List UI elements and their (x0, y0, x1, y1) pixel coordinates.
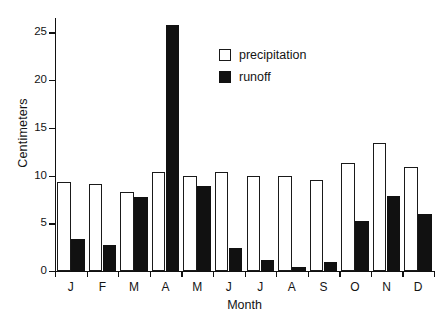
x-axis-tick-mark (276, 271, 277, 277)
x-axis-tick-mark (371, 271, 372, 277)
legend-item-precipitation: precipitation (219, 45, 359, 64)
x-axis-tick-mark (402, 271, 403, 277)
x-axis-tick-label-2: M (119, 280, 149, 294)
legend-item-runoff: runoff (219, 67, 359, 86)
x-axis-tick-label-8: S (308, 280, 338, 294)
x-axis-tick-mark (434, 271, 435, 277)
x-axis-tick-label-6: J (245, 280, 275, 294)
x-axis-tick-mark (55, 271, 56, 277)
x-axis-tick-label-10: N (372, 280, 402, 294)
chart-legend: precipitation runoff (219, 45, 359, 89)
x-axis-tick-label-3: A (151, 280, 181, 294)
x-axis-tick-label-7: A (277, 280, 307, 294)
x-axis-tick-mark (245, 271, 246, 277)
x-axis-tick-mark (118, 271, 119, 277)
x-axis-tick-label-11: D (403, 280, 433, 294)
x-axis-tick-mark (339, 271, 340, 277)
x-axis-title: Month (55, 298, 434, 312)
x-axis-tick-label-9: O (340, 280, 370, 294)
x-axis-tick-mark (181, 271, 182, 277)
x-axis-tick-mark (308, 271, 309, 277)
legend-swatch-runoff-icon (219, 71, 231, 83)
legend-label-precipitation: precipitation (239, 48, 306, 62)
x-axis-tick-mark (87, 271, 88, 277)
legend-label-runoff: runoff (239, 70, 271, 84)
x-axis-tick-mark (213, 271, 214, 277)
x-axis-tick-mark (150, 271, 151, 277)
x-axis-tick-label-5: J (214, 280, 244, 294)
x-axis-tick-label-0: J (56, 280, 86, 294)
x-axis-tick-label-1: F (87, 280, 117, 294)
legend-swatch-precipitation-icon (219, 49, 231, 61)
x-axis-tick-label-4: M (182, 280, 212, 294)
precipitation-runoff-bar-chart: Centimeters 0510152025 JFMAMJJASOND Mont… (0, 0, 444, 322)
